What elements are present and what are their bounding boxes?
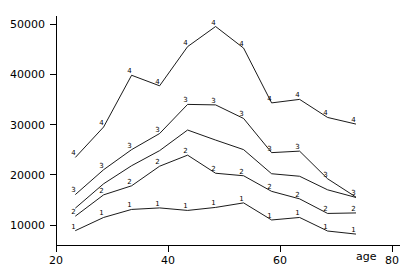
y-axis-tick-label: 30000 [10, 119, 45, 132]
data-point-marker-2: 2 [211, 165, 215, 173]
data-point-marker-3: 3 [99, 162, 103, 170]
series-line-1 [76, 203, 356, 234]
data-point-marker-4: 4 [99, 119, 104, 127]
x-axis-tick-label: 20 [49, 254, 63, 267]
line-chart-plot: 1111111111122222222222333333333334444444… [0, 0, 407, 272]
data-point-marker-4: 4 [351, 116, 356, 124]
data-point-marker-1: 1 [239, 195, 243, 203]
y-axis-tick-label: 10000 [10, 219, 45, 232]
x-axis-tick-label: 80 [385, 254, 399, 267]
data-point-marker-4: 4 [239, 40, 244, 48]
data-point-marker-2: 2 [127, 178, 131, 186]
x-axis-tick-labels: 20406080 [49, 254, 399, 267]
data-point-marker-2: 2 [183, 147, 187, 155]
data-point-marker-3: 3 [323, 171, 327, 179]
data-point-marker-3: 3 [267, 145, 271, 153]
data-point-marker-3: 3 [155, 126, 159, 134]
x-axis-label: age [356, 250, 377, 263]
data-point-marker-1: 1 [211, 199, 215, 207]
data-point-marker-3: 3 [351, 189, 355, 197]
data-point-marker-3: 3 [127, 142, 131, 150]
x-axis-tick-label: 40 [161, 254, 175, 267]
y-axis-ticks [50, 24, 56, 225]
chart-container: 1111111111122222222222333333333334444444… [0, 0, 407, 272]
data-point-marker-2: 2 [323, 205, 327, 213]
data-point-marker-3: 3 [71, 186, 75, 194]
data-point-marker-2: 2 [295, 191, 299, 199]
data-point-marker-4: 4 [267, 95, 272, 103]
series-line-4 [76, 27, 356, 158]
y-axis-tick-label: 50000 [10, 18, 45, 31]
y-axis-tick-label: 20000 [10, 169, 45, 182]
data-point-marker-4: 4 [323, 109, 328, 117]
data-point-marker-2: 2 [267, 183, 271, 191]
x-axis-tick-label: 60 [273, 254, 287, 267]
data-point-marker-4: 4 [127, 67, 132, 75]
data-point-marker-1: 1 [323, 223, 327, 231]
x-axis-ticks [56, 245, 392, 252]
data-point-marker-3: 3 [211, 97, 215, 105]
data-point-marker-4: 4 [183, 39, 188, 47]
data-point-marker-1: 1 [127, 201, 131, 209]
data-point-marker-1: 1 [71, 223, 75, 231]
data-point-marker-1: 1 [183, 202, 187, 210]
data-point-marker-1: 1 [295, 209, 299, 217]
y-axis-tick-labels: 1000020000300004000050000 [10, 18, 45, 232]
axes-group [56, 16, 400, 245]
data-point-marker-4: 4 [71, 149, 76, 157]
y-axis-tick-label: 40000 [10, 68, 45, 81]
data-point-marker-2: 2 [71, 208, 75, 216]
data-point-marker-4: 4 [295, 91, 300, 99]
data-point-marker-1: 1 [99, 209, 103, 217]
data-point-marker-1: 1 [351, 226, 355, 234]
data-point-marker-4: 4 [211, 19, 216, 27]
data-point-marker-3: 3 [295, 143, 299, 151]
data-point-marker-2: 2 [239, 168, 243, 176]
data-point-marker-3: 3 [183, 96, 187, 104]
data-point-marker-1: 1 [155, 200, 159, 208]
data-point-marker-2: 2 [155, 158, 159, 166]
data-point-marker-1: 1 [267, 212, 271, 220]
data-point-marker-4: 4 [155, 78, 160, 86]
data-point-marker-2: 2 [351, 205, 355, 213]
series-group: 1111111111122222222222333333333334444444… [71, 19, 356, 235]
data-point-marker-2: 2 [99, 187, 103, 195]
data-point-marker-3: 3 [239, 110, 243, 118]
